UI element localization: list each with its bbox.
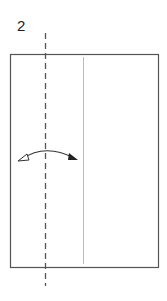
origami-diagram [0, 0, 167, 301]
paper-sheet [11, 55, 159, 268]
